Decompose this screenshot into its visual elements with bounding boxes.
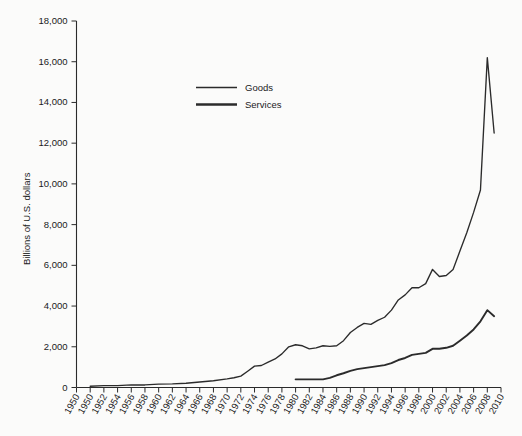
chart-container: Billions of U.S. dollars 02,0004,0006,00… [0,0,522,436]
series-layer [90,58,494,387]
y-axis-ticks: 02,0004,0006,0008,00010,00012,00014,0001… [38,15,76,393]
chart-legend: Goods Services [196,82,282,110]
series-line-goods [90,58,494,387]
line-chart: Billions of U.S. dollars 02,0004,0006,00… [0,0,522,436]
y-axis-tick-label: 14,000 [38,96,67,107]
legend-label-services: Services [245,99,282,110]
y-axis-title: Billions of U.S. dollars [21,172,32,265]
x-axis-ticks: 1950195019521954195619581960196219641966… [62,388,507,416]
x-axis: 1950195019521954195619581960196219641966… [62,388,507,416]
y-axis-tick-label: 10,000 [38,178,67,189]
y-axis-tick-label: 4,000 [44,300,68,311]
series-line-services [296,310,495,379]
y-axis-tick-label: 16,000 [38,56,67,67]
legend-label-goods: Goods [245,82,273,93]
y-axis-tick-label: 0 [62,382,67,393]
y-axis-tick-label: 2,000 [44,341,68,352]
y-axis: 02,0004,0006,0008,00010,00012,00014,0001… [38,15,76,393]
y-axis-tick-label: 18,000 [38,15,67,26]
y-axis-tick-label: 8,000 [44,219,68,230]
y-axis-tick-label: 6,000 [44,259,68,270]
y-axis-tick-label: 12,000 [38,137,67,148]
y-axis-title-label: Billions of U.S. dollars [21,172,32,265]
